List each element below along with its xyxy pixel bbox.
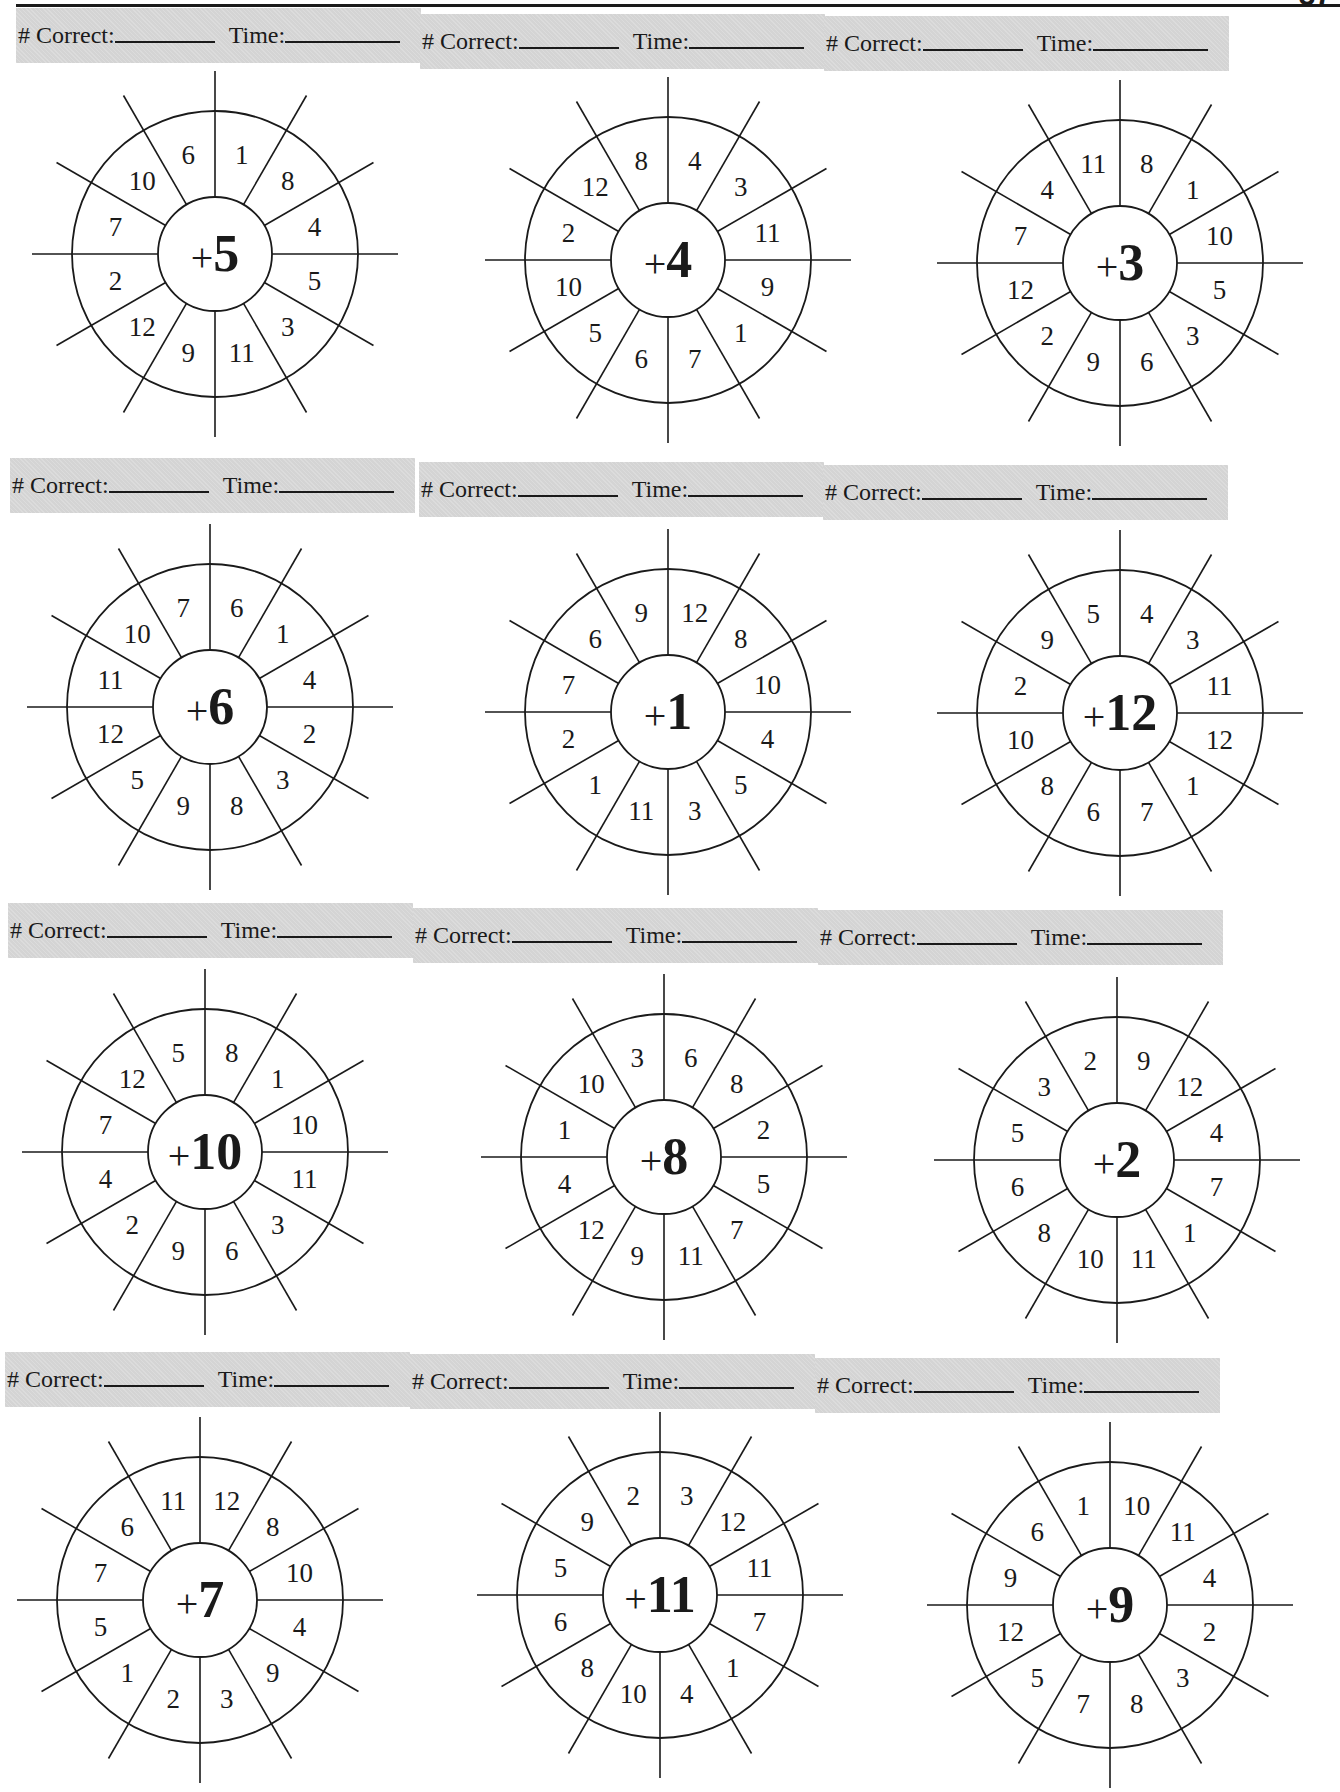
correct-blank-field[interactable] bbox=[518, 477, 618, 497]
sector-number: 12 bbox=[582, 172, 609, 202]
sector-number: 7 bbox=[562, 670, 576, 700]
sector-number: 2 bbox=[1040, 321, 1054, 351]
time-blank-field[interactable] bbox=[688, 477, 803, 497]
sector-number: 8 bbox=[266, 1512, 280, 1542]
sector-number: 3 bbox=[220, 1684, 234, 1714]
sector-number: 9 bbox=[172, 1236, 186, 1266]
addition-wheel-2: 431191765102128+4 bbox=[485, 77, 851, 443]
spoke-line bbox=[697, 102, 760, 211]
sector-number: 10 bbox=[1007, 725, 1034, 755]
sector-number: 10 bbox=[578, 1069, 605, 1099]
correct-label: # Correct: bbox=[18, 8, 115, 63]
time-label: Time: bbox=[1028, 1358, 1084, 1413]
sector-number: 9 bbox=[266, 1658, 280, 1688]
time-blank-field[interactable] bbox=[679, 1369, 794, 1389]
sector-number: 2 bbox=[562, 218, 576, 248]
sector-number: 5 bbox=[1087, 599, 1101, 629]
sector-number: 8 bbox=[225, 1038, 239, 1068]
addition-wheel-7: 811011369247125+10 bbox=[22, 969, 388, 1335]
spoke-line bbox=[1149, 555, 1212, 664]
sector-number: 6 bbox=[120, 1512, 134, 1542]
sector-number: 2 bbox=[303, 719, 317, 749]
sector-number: 1 bbox=[558, 1115, 572, 1145]
time-blank-field[interactable] bbox=[277, 918, 392, 938]
sector-number: 8 bbox=[1140, 149, 1154, 179]
sector-number: 9 bbox=[1087, 347, 1101, 377]
addend-number: 9 bbox=[1108, 1576, 1134, 1633]
spoke-line bbox=[1139, 1654, 1202, 1763]
time-blank-field[interactable] bbox=[285, 23, 400, 43]
sector-number: 10 bbox=[754, 670, 781, 700]
sector-number: 8 bbox=[281, 166, 295, 196]
sector-number: 11 bbox=[1080, 149, 1106, 179]
addend-number: 8 bbox=[662, 1128, 688, 1185]
correct-blank-field[interactable] bbox=[519, 29, 619, 49]
spoke-line bbox=[234, 994, 297, 1103]
addend-number: 6 bbox=[208, 678, 234, 735]
correct-label: # Correct: bbox=[421, 462, 518, 517]
sector-number: 4 bbox=[1203, 1563, 1217, 1593]
sector-number: 2 bbox=[627, 1481, 641, 1511]
sector-number: 9 bbox=[1137, 1046, 1151, 1076]
sector-number: 3 bbox=[276, 765, 290, 795]
time-blank-field[interactable] bbox=[279, 473, 394, 493]
spoke-line bbox=[1019, 1654, 1082, 1763]
time-blank-field[interactable] bbox=[682, 923, 797, 943]
correct-label: # Correct: bbox=[817, 1358, 914, 1413]
sector-number: 5 bbox=[130, 765, 144, 795]
sector-number: 9 bbox=[182, 338, 196, 368]
sector-number: 10 bbox=[555, 272, 582, 302]
time-blank-field[interactable] bbox=[274, 1367, 389, 1387]
time-label: Time: bbox=[626, 908, 682, 963]
sector-number: 4 bbox=[1210, 1118, 1224, 1148]
correct-blank-field[interactable] bbox=[914, 1373, 1014, 1393]
time-blank-field[interactable] bbox=[1092, 480, 1207, 500]
sector-number: 11 bbox=[678, 1241, 704, 1271]
sector-number: 7 bbox=[1140, 797, 1154, 827]
sector-number: 1 bbox=[588, 770, 602, 800]
time-blank-field[interactable] bbox=[1084, 1373, 1199, 1393]
time-blank-field[interactable] bbox=[1087, 925, 1202, 945]
sector-number: 4 bbox=[303, 665, 317, 695]
sector-number: 6 bbox=[1140, 347, 1154, 377]
time-label: Time: bbox=[229, 8, 285, 63]
sector-number: 6 bbox=[684, 1043, 698, 1073]
correct-label: # Correct: bbox=[825, 465, 922, 520]
sector-number: 3 bbox=[1186, 625, 1200, 655]
sector-number: 12 bbox=[119, 1064, 146, 1094]
sector-number: 7 bbox=[177, 593, 191, 623]
sector-number: 2 bbox=[1084, 1046, 1098, 1076]
spoke-line bbox=[1149, 105, 1212, 214]
sector-number: 2 bbox=[109, 266, 123, 296]
sector-number: 7 bbox=[94, 1558, 108, 1588]
sector-number: 6 bbox=[1011, 1172, 1025, 1202]
spoke-line bbox=[689, 1644, 752, 1753]
correct-blank-field[interactable] bbox=[922, 480, 1022, 500]
correct-blank-field[interactable] bbox=[115, 23, 215, 43]
sector-number: 11 bbox=[754, 218, 780, 248]
addition-wheel-6: 431112176810295+12 bbox=[937, 530, 1303, 896]
spoke-line bbox=[229, 1649, 292, 1758]
time-label: Time: bbox=[1036, 465, 1092, 520]
sector-number: 4 bbox=[293, 1612, 307, 1642]
sector-number: 11 bbox=[1170, 1517, 1196, 1547]
time-blank-field[interactable] bbox=[689, 29, 804, 49]
spoke-line bbox=[577, 554, 640, 663]
plus-sign: + bbox=[176, 1581, 199, 1626]
spoke-line bbox=[577, 309, 640, 418]
correct-blank-field[interactable] bbox=[917, 925, 1017, 945]
addition-wheel-11: 312117141086592+11 bbox=[477, 1412, 843, 1778]
time-label: Time: bbox=[221, 903, 277, 958]
correct-blank-field[interactable] bbox=[512, 923, 612, 943]
sector-number: 8 bbox=[1040, 771, 1054, 801]
plus-sign: + bbox=[1096, 244, 1119, 289]
correct-blank-field[interactable] bbox=[104, 1367, 204, 1387]
correct-blank-field[interactable] bbox=[509, 1369, 609, 1389]
sector-number: 11 bbox=[229, 338, 255, 368]
correct-blank-field[interactable] bbox=[109, 473, 209, 493]
time-blank-field[interactable] bbox=[1093, 31, 1208, 51]
correct-blank-field[interactable] bbox=[923, 31, 1023, 51]
correct-blank-field[interactable] bbox=[107, 918, 207, 938]
spoke-line bbox=[244, 96, 307, 205]
spoke-line bbox=[1149, 312, 1212, 421]
